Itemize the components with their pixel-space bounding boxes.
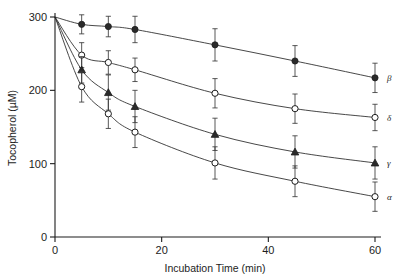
- series-layer: [55, 15, 379, 212]
- data-point-marker: [131, 103, 139, 110]
- tocopherol-decay-chart: 01002003000204060 Incubation Time (min) …: [0, 0, 403, 280]
- series-label-γ: γ: [387, 158, 391, 168]
- data-point-marker: [105, 111, 111, 117]
- data-point-marker: [105, 89, 113, 96]
- x-axis-title: Incubation Time (min): [165, 262, 266, 274]
- data-point-marker: [105, 59, 111, 65]
- data-point-marker: [79, 21, 85, 27]
- series-label-α: α: [387, 192, 392, 202]
- data-point-marker: [212, 160, 218, 166]
- data-point-marker: [132, 129, 138, 135]
- y-tick-label: 300: [29, 11, 47, 23]
- data-point-marker: [212, 42, 218, 48]
- data-point-marker: [292, 178, 298, 184]
- series-endpoint-labels: βδγα: [386, 73, 392, 202]
- data-point-marker: [212, 90, 218, 96]
- data-point-marker: [132, 67, 138, 73]
- axis-label-layer: Incubation Time (min) Tocopherol (µM): [6, 90, 265, 274]
- data-point-marker: [105, 23, 111, 29]
- data-point-marker: [292, 106, 298, 112]
- y-tick-label: 100: [29, 158, 47, 170]
- data-point-marker: [79, 84, 85, 90]
- data-point-marker: [292, 58, 298, 64]
- series-γ: [55, 17, 379, 179]
- figure-panel: 01002003000204060 Incubation Time (min) …: [0, 0, 403, 280]
- series-label-β: β: [386, 73, 392, 83]
- data-point-marker: [372, 114, 378, 120]
- x-tick-label: 0: [52, 244, 58, 256]
- data-point-marker: [132, 26, 138, 32]
- x-tick-label: 60: [369, 244, 381, 256]
- y-tick-label: 200: [29, 84, 47, 96]
- data-point-marker: [372, 75, 378, 81]
- series-δ: [55, 17, 378, 131]
- x-tick-label: 20: [156, 244, 168, 256]
- y-tick-label: 0: [41, 231, 47, 243]
- series-label-δ: δ: [387, 113, 392, 123]
- data-point-marker: [372, 194, 378, 200]
- series-β: [55, 15, 378, 93]
- y-axis-title: Tocopherol (µM): [6, 90, 18, 166]
- x-tick-label: 40: [262, 244, 274, 256]
